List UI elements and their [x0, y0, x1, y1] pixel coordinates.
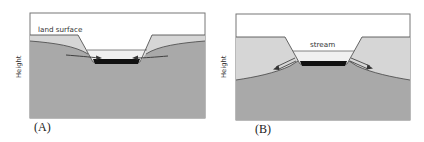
panel-a-label: (A) [34, 120, 51, 134]
panel-b-annotation: stream [310, 40, 335, 49]
panel-a: land surface Height (A) [15, 13, 205, 134]
stream-groundwater-diagram: land surface Height (A) stream [0, 0, 424, 142]
panel-b: stream Height (B) [220, 14, 410, 136]
panel-b-y-axis-label: Height [220, 55, 228, 78]
panel-a-annotation: land surface [38, 25, 83, 34]
panel-b-streambed [300, 61, 347, 66]
panel-b-label: (B) [255, 122, 271, 136]
panel-a-streambed [93, 59, 140, 64]
panel-a-y-axis-label: Height [15, 55, 23, 78]
